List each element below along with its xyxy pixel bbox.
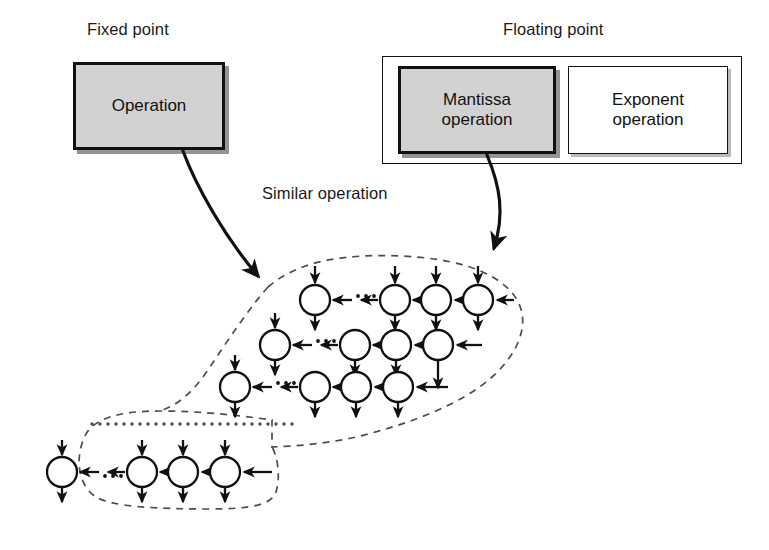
array-node: [127, 457, 157, 487]
figure-canvas: Fixed point Floating point Similar opera…: [0, 0, 769, 550]
array-node: [423, 330, 453, 360]
array-node: [210, 457, 240, 487]
array-node: [300, 285, 330, 315]
array-node: [168, 457, 198, 487]
array-row: [47, 440, 272, 502]
row-ellipsis: [103, 474, 123, 478]
array-node: [341, 372, 371, 402]
array-vertical-ellipsis-row: [90, 422, 293, 425]
row-ellipsis: [276, 381, 296, 385]
array-node: [463, 285, 493, 315]
array-row: [220, 355, 448, 417]
array-node: [421, 285, 451, 315]
array-node: [383, 372, 413, 402]
array-node: [260, 330, 290, 360]
connector-operation-to-array: [183, 151, 258, 276]
array-node: [381, 330, 411, 360]
diagram-vector-layer: [0, 0, 769, 550]
connector-mantissa-to-array: [487, 155, 500, 248]
array-node: [300, 372, 330, 402]
array-row: [300, 266, 514, 330]
row-ellipsis: [316, 339, 336, 343]
row-ellipsis: [356, 294, 376, 298]
array-row: [260, 313, 482, 388]
array-node: [220, 372, 250, 402]
array-node: [340, 330, 370, 360]
array-node: [47, 457, 77, 487]
array-node: [380, 285, 410, 315]
